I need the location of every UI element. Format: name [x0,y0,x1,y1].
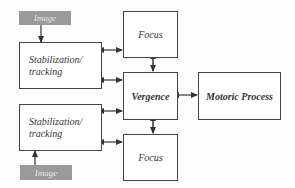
stab-top-label-2: tracking [29,66,82,78]
focus-top: Focus [123,11,178,58]
image-input-bottom: Image [20,165,72,180]
image-top-label: Image [34,13,57,23]
image-bottom-label: Image [35,168,58,178]
focus-top-label: Focus [138,29,162,40]
motoric-label: Motoric Process [206,91,273,102]
vergence-label: Vergence [132,91,170,102]
stab-bottom-label-2: tracking [29,128,82,140]
stabilization-tracking-bottom: Stabilization/ tracking [19,104,102,151]
stab-top-label-1: Stabilization/ [29,54,82,66]
stab-bottom-label-1: Stabilization/ [29,116,82,128]
vergence: Vergence [123,72,178,120]
image-input-top: Image [19,11,71,25]
vision-system-diagram: Image Stabilization/ tracking Focus Verg… [0,0,295,188]
motoric-process: Motoric Process [198,72,281,120]
focus-bottom: Focus [123,134,178,181]
stabilization-tracking-top: Stabilization/ tracking [19,42,102,89]
focus-bottom-label: Focus [138,152,162,163]
